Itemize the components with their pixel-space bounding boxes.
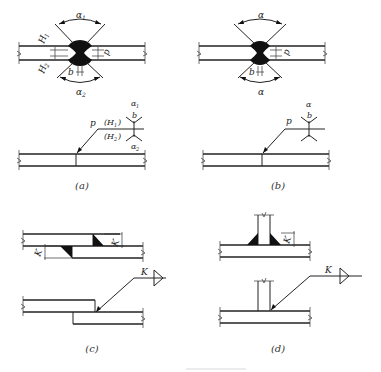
panel-a-section: α 1 α 2 H 1 H 2 p b bbox=[17, 10, 147, 98]
weld-bead bbox=[68, 40, 92, 66]
panel-d-symbol: K (d) bbox=[218, 265, 362, 354]
label-b: b bbox=[68, 67, 74, 77]
svg-text:p: p bbox=[286, 116, 292, 126]
svg-text:2: 2 bbox=[113, 136, 117, 142]
weld-bead bbox=[250, 41, 270, 65]
svg-text:K: K bbox=[32, 247, 44, 259]
caption-a: (a) bbox=[75, 180, 89, 191]
caption-c: (c) bbox=[85, 343, 99, 354]
svg-text:1: 1 bbox=[114, 122, 117, 128]
fillet-weld-right bbox=[270, 233, 281, 245]
svg-text:K: K bbox=[140, 267, 149, 277]
svg-text:α: α bbox=[258, 10, 264, 20]
svg-text:): ) bbox=[117, 132, 121, 141]
leader-line bbox=[271, 276, 310, 310]
svg-text:K: K bbox=[281, 234, 293, 246]
panel-c-symbol: K (c) bbox=[21, 267, 166, 354]
svg-text:b: b bbox=[307, 111, 312, 120]
panel-c-section: K K bbox=[21, 230, 145, 262]
svg-text:2: 2 bbox=[135, 146, 139, 152]
svg-text:α: α bbox=[306, 100, 312, 109]
caption-b: (b) bbox=[271, 180, 285, 191]
welding-diagram: α 1 α 2 H 1 H 2 p b bbox=[0, 0, 381, 372]
svg-text:b: b bbox=[249, 67, 255, 77]
svg-text:p: p bbox=[280, 48, 291, 57]
svg-text:b: b bbox=[132, 111, 137, 120]
panel-b-symbol: p α b (b) bbox=[201, 100, 331, 191]
caption-d: (d) bbox=[271, 343, 285, 354]
fillet-weld-bottom bbox=[60, 246, 72, 258]
label-p: p bbox=[100, 48, 111, 57]
panel-b-section: α α p b bbox=[197, 10, 327, 97]
svg-text:2: 2 bbox=[81, 91, 86, 98]
leader-line bbox=[96, 278, 134, 312]
svg-text:p: p bbox=[90, 118, 96, 128]
fillet-weld-left bbox=[247, 233, 258, 245]
svg-text:): ) bbox=[117, 118, 121, 127]
panel-d-section: K bbox=[218, 212, 312, 261]
svg-text:1: 1 bbox=[82, 14, 86, 21]
fillet-weld-top bbox=[93, 234, 104, 246]
svg-text:K: K bbox=[109, 237, 121, 249]
panel-a-symbol: p (H 1 ) (H 2 ) α 1 b α 2 (a) bbox=[17, 99, 147, 191]
svg-text:K: K bbox=[324, 265, 333, 275]
svg-text:α: α bbox=[258, 87, 264, 97]
svg-text:1: 1 bbox=[136, 103, 139, 109]
faint-caption bbox=[186, 368, 246, 370]
